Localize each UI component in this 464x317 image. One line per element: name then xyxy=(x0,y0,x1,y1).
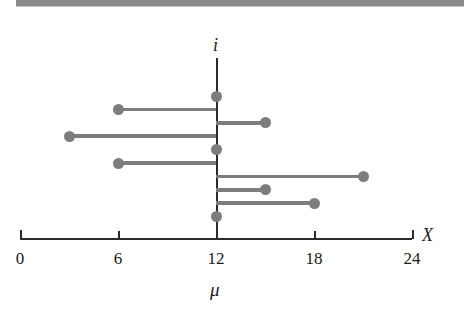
x-axis-tick-label-12: 12 xyxy=(196,250,236,267)
figure-container: 06121824iXμ xyxy=(0,0,464,317)
x-axis-tick-0 xyxy=(20,230,22,239)
interval-endpoint-dot xyxy=(358,171,369,182)
interval-line xyxy=(69,134,216,138)
interval-endpoint-dot xyxy=(211,91,222,102)
x-axis-tick-label-6: 6 xyxy=(98,250,138,267)
interval-line xyxy=(118,108,216,112)
x-axis-tick-18 xyxy=(314,231,316,239)
interval-endpoint-dot xyxy=(260,117,271,128)
interval-line xyxy=(216,121,265,125)
interval-endpoint-dot xyxy=(113,104,124,115)
x-axis-label-X: X xyxy=(422,226,433,244)
y-axis-label-i: i xyxy=(213,36,218,54)
interval-endpoint-dot xyxy=(64,131,75,142)
interval-endpoint-dot xyxy=(113,158,124,169)
interval-line xyxy=(216,201,314,205)
interval-line xyxy=(118,161,216,165)
x-axis-tick-label-18: 18 xyxy=(294,250,334,267)
interval-endpoint-dot xyxy=(211,211,222,222)
interval-endpoint-dot xyxy=(309,198,320,209)
mu-label: μ xyxy=(210,280,220,299)
interval-endpoint-dot xyxy=(260,184,271,195)
interval-endpoint-dot xyxy=(211,144,222,155)
x-axis-tick-label-24: 24 xyxy=(392,250,432,267)
plot-area: 06121824iXμ xyxy=(0,0,464,317)
interval-line xyxy=(216,188,265,192)
x-axis-tick-6 xyxy=(118,231,120,239)
x-axis-tick-label-0: 0 xyxy=(0,250,40,267)
interval-line xyxy=(216,175,363,179)
x-axis-tick-24 xyxy=(412,230,414,239)
